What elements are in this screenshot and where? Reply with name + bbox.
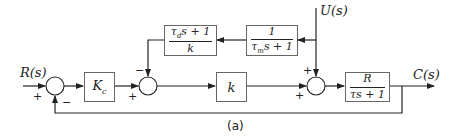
sum2-plus-sign: +: [128, 91, 137, 102]
summing-junction-3: [307, 77, 325, 95]
output-signal-label: C(s): [413, 68, 440, 81]
summing-junction-2: [139, 77, 157, 95]
figure-caption: (a): [227, 119, 244, 133]
controller-block: Kc: [84, 72, 115, 102]
input-signal-label: R(s): [20, 66, 47, 79]
measurement-block: 1 τms + 1: [246, 25, 298, 56]
sum1-plus-sign: +: [33, 91, 42, 102]
sum3-plus-sign-left: +: [295, 90, 304, 101]
plant-fraction: R τs + 1: [350, 73, 385, 100]
sum2-minus-sign: −: [135, 65, 144, 76]
sum3-plus-sign-top: +: [303, 65, 312, 76]
gain-label: k: [228, 80, 236, 95]
sum1-minus-sign: −: [62, 97, 71, 108]
gain-block: k: [216, 72, 247, 102]
controller-label: Kc: [92, 78, 106, 96]
derivative-fraction: τds + 1 k: [169, 26, 212, 56]
measurement-fraction: 1 τms + 1: [251, 26, 293, 56]
derivative-block: τds + 1 k: [164, 25, 217, 56]
summing-junction-1: [46, 77, 64, 95]
plant-block: R τs + 1: [345, 72, 390, 102]
disturbance-signal-label: U(s): [320, 4, 348, 17]
